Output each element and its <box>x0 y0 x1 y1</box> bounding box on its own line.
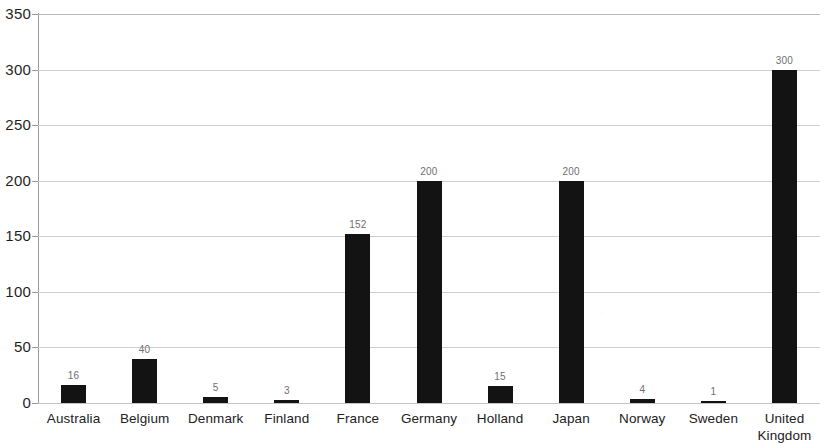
y-axis-tick-label: 150 <box>0 227 31 244</box>
y-axis-tick-label: 200 <box>0 172 31 189</box>
bar <box>132 359 157 403</box>
bar <box>345 234 370 403</box>
bar-value-label: 300 <box>759 55 809 66</box>
bar-value-label: 200 <box>546 166 596 177</box>
y-axis-tick-label: 50 <box>0 338 31 355</box>
bar <box>488 386 513 403</box>
bar <box>61 385 86 403</box>
bar-value-label: 4 <box>617 384 667 395</box>
bar <box>203 397 228 403</box>
bar <box>630 399 655 403</box>
bar <box>701 401 726 403</box>
y-axis-tick-label: 0 <box>0 394 31 411</box>
y-axis-tick-labels: 050100150200250300350 <box>0 0 31 441</box>
bar-value-label: 152 <box>333 219 383 230</box>
gridline <box>38 403 820 404</box>
bar-value-label: 3 <box>262 385 312 396</box>
bar-value-label: 5 <box>191 382 241 393</box>
y-axis-tick-label: 300 <box>0 61 31 78</box>
gridline <box>38 125 820 126</box>
bar <box>772 70 797 403</box>
bar-value-label: 40 <box>120 344 170 355</box>
y-axis-tick-label: 250 <box>0 116 31 133</box>
bar <box>274 400 299 403</box>
bar <box>417 181 442 403</box>
bar-value-label: 15 <box>475 371 525 382</box>
category-label: United Kingdom <box>739 410 825 444</box>
bar-value-label: 16 <box>49 370 99 381</box>
gridline <box>38 14 820 15</box>
y-axis-tick-label: 350 <box>0 5 31 22</box>
bar-value-label: 1 <box>688 386 738 397</box>
bar-value-label: 200 <box>404 166 454 177</box>
gridline <box>38 70 820 71</box>
bar <box>559 181 584 403</box>
y-axis-tick-label: 100 <box>0 283 31 300</box>
